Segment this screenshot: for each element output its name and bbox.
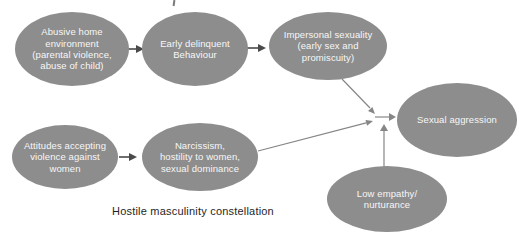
arrow-junction-to-aggression	[375, 113, 396, 121]
diagram-caption: Hostile masculinity constellation	[98, 205, 288, 217]
node-low-empathy-nurturance: Low empathy/ nurturance	[327, 166, 447, 232]
node-abusive-home-environment: Abusive home environment (parental viole…	[15, 12, 129, 86]
arrow-attitudes-to-narcissism	[119, 153, 137, 161]
path-model-diagram: Abusive home environment (parental viole…	[0, 0, 519, 240]
arrow-narcissism-to-junction	[258, 120, 373, 151]
arrow-impersonal-to-junction	[342, 79, 375, 114]
node-attitudes-accepting-violence: Attitudes accepting violence against wom…	[12, 125, 118, 189]
node-impersonal-sexuality: Impersonal sexuality (early sex and prom…	[269, 12, 387, 80]
node-sexual-aggression: Sexual aggression	[397, 83, 517, 157]
arrow-delinquent-to-impersonal	[247, 44, 266, 52]
node-narcissism-hostility: Narcissism, hostility to women, sexual d…	[142, 123, 258, 191]
node-early-delinquent-behaviour: Early delinquent Behaviour	[142, 12, 248, 86]
arrow-lowempathy-to-junction	[380, 124, 388, 167]
